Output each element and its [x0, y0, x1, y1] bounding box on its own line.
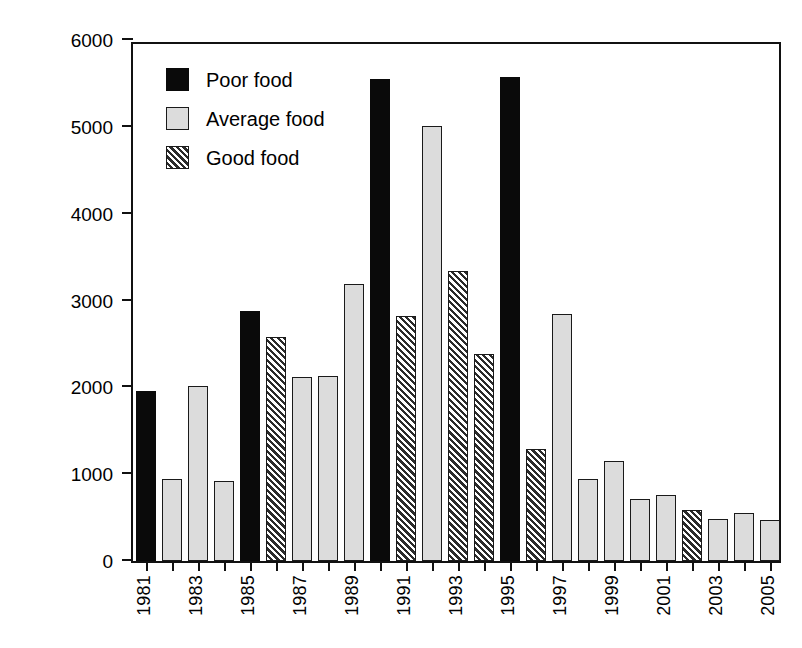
- x-tick-label: 1987: [291, 575, 309, 616]
- bar-1984: [214, 481, 234, 561]
- x-tick: [380, 561, 382, 571]
- x-tick: [354, 561, 356, 571]
- y-tick-label: 3000: [71, 291, 113, 310]
- x-tick: [484, 561, 486, 571]
- bar-1987: [292, 377, 312, 561]
- bar-1990: [370, 79, 390, 561]
- y-tick: 3000: [122, 299, 133, 301]
- x-tick: [458, 561, 460, 571]
- legend-swatch-icon: [166, 146, 189, 169]
- bar-1996: [526, 449, 546, 561]
- x-tick: [640, 561, 642, 571]
- bar-1998: [578, 479, 598, 561]
- x-tick: [146, 561, 148, 571]
- y-tick-label: 4000: [71, 204, 113, 223]
- x-tick: [172, 561, 174, 571]
- x-tick-label: 1999: [603, 575, 621, 616]
- x-tick: [588, 561, 590, 571]
- legend-label: Poor food: [206, 70, 293, 90]
- x-tick: [770, 561, 772, 571]
- bar-2004: [734, 513, 754, 561]
- x-tick-label: 1985: [239, 575, 257, 616]
- bar-1988: [318, 376, 338, 561]
- bar-1981: [136, 391, 156, 561]
- bar-1985: [240, 311, 260, 561]
- x-tick: [666, 561, 668, 571]
- bar-1999: [604, 461, 624, 561]
- x-tick: [328, 561, 330, 571]
- x-tick: [536, 561, 538, 571]
- x-tick: [406, 561, 408, 571]
- y-tick-label: 0: [102, 552, 113, 571]
- legend-label: Good food: [206, 148, 299, 168]
- x-tick: [224, 561, 226, 571]
- x-tick-label: 1993: [447, 575, 465, 616]
- bar-2002: [682, 510, 702, 561]
- bar-chart-figure: Nuisance complaints 01000200030004000500…: [0, 0, 802, 648]
- bar-1982: [162, 479, 182, 561]
- bar-1995: [500, 77, 520, 561]
- x-tick: [692, 561, 694, 571]
- bar-1983: [188, 386, 208, 561]
- legend-swatch-icon: [166, 107, 189, 130]
- x-tick: [302, 561, 304, 571]
- bar-1993: [448, 271, 468, 561]
- x-tick: [432, 561, 434, 571]
- legend-item: Average food: [166, 107, 325, 130]
- y-tick: 4000: [122, 212, 133, 214]
- bar-1991: [396, 316, 416, 561]
- x-tick-label: 1995: [499, 575, 517, 616]
- legend-item: Good food: [166, 146, 325, 169]
- bar-1992: [422, 126, 442, 561]
- x-tick: [744, 561, 746, 571]
- bar-2005: [760, 520, 780, 561]
- bar-2001: [656, 495, 676, 561]
- x-tick: [510, 561, 512, 571]
- y-tick-label: 2000: [71, 378, 113, 397]
- x-tick: [614, 561, 616, 571]
- y-tick: 5000: [122, 125, 133, 127]
- legend-item: Poor food: [166, 68, 325, 91]
- bar-1989: [344, 284, 364, 561]
- x-tick-label: 1991: [395, 575, 413, 616]
- legend-label: Average food: [206, 109, 325, 129]
- y-tick: 6000: [122, 38, 133, 40]
- y-tick-label: 5000: [71, 117, 113, 136]
- y-tick: 0: [122, 559, 133, 561]
- y-tick: 1000: [122, 472, 133, 474]
- x-tick-label: 1983: [187, 575, 205, 616]
- legend-swatch-icon: [166, 68, 189, 91]
- bar-2003: [708, 519, 728, 561]
- y-tick-label: 1000: [71, 465, 113, 484]
- x-tick-label: 1989: [343, 575, 361, 616]
- chart-legend: Poor foodAverage foodGood food: [166, 68, 325, 169]
- x-tick: [718, 561, 720, 571]
- x-tick-label: 1981: [135, 575, 153, 616]
- x-tick-label: 2003: [707, 575, 725, 616]
- bar-2000: [630, 499, 650, 561]
- y-tick-label: 6000: [71, 31, 113, 50]
- x-tick-label: 1997: [551, 575, 569, 616]
- bar-1997: [552, 314, 572, 561]
- x-tick: [250, 561, 252, 571]
- y-tick: 2000: [122, 385, 133, 387]
- x-tick: [562, 561, 564, 571]
- bar-1986: [266, 337, 286, 561]
- x-tick-label: 2001: [655, 575, 673, 616]
- x-tick: [276, 561, 278, 571]
- x-tick: [198, 561, 200, 571]
- x-tick-label: 2005: [759, 575, 777, 616]
- bar-1994: [474, 354, 494, 561]
